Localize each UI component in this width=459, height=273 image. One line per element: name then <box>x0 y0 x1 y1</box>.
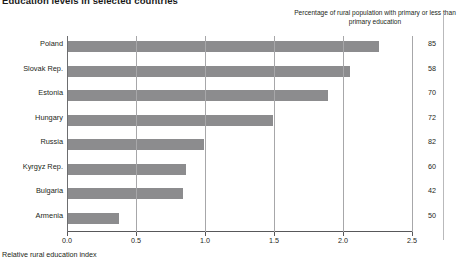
value-column-caption: Percentage of rural population with prim… <box>292 9 458 26</box>
chart-row: Slovak Rep.58 <box>67 61 412 86</box>
page-title: Education levels in selected countries <box>2 0 178 6</box>
gridline-1.0 <box>205 36 206 232</box>
bar <box>67 90 328 101</box>
gridline-2.5 <box>412 36 413 232</box>
bar <box>67 41 379 52</box>
percentage-value: 85 <box>419 39 445 48</box>
category-label: Russia <box>40 137 63 146</box>
gridline-2.0 <box>343 36 344 232</box>
bar <box>67 115 273 126</box>
category-label: Estonia <box>38 88 63 97</box>
x-tick-label-2.0: 2.0 <box>338 236 348 245</box>
percentage-value: 42 <box>419 186 445 195</box>
x-tick-label-2.5: 2.5 <box>407 236 417 245</box>
category-label: Armenia <box>35 211 63 220</box>
bar-rows: Poland85Slovak Rep.58Estonia70Hungary72R… <box>67 36 412 232</box>
chart-row: Kyrgyz Rep.60 <box>67 159 412 184</box>
bar <box>67 213 119 224</box>
percentage-value: 50 <box>419 211 445 220</box>
chart-row: Armenia50 <box>67 208 412 233</box>
x-tick-label-0.0: 0.0 <box>62 236 72 245</box>
gridline-1.5 <box>274 36 275 232</box>
x-axis-title: Relative rural education index <box>2 250 97 259</box>
bar <box>67 188 183 199</box>
category-label: Kyrgyz Rep. <box>23 162 63 171</box>
category-label: Bulgaria <box>36 186 63 195</box>
percentage-value: 72 <box>419 113 445 122</box>
chart-row: Hungary72 <box>67 110 412 135</box>
percentage-value: 82 <box>419 137 445 146</box>
chart-row: Estonia70 <box>67 85 412 110</box>
chart-row: Bulgaria42 <box>67 183 412 208</box>
percentage-value: 70 <box>419 88 445 97</box>
bar <box>67 66 350 77</box>
x-tick-label-1.5: 1.5 <box>269 236 279 245</box>
category-label: Poland <box>40 39 63 48</box>
chart-row: Poland85 <box>67 36 412 61</box>
x-axis-tick-labels: 0.00.51.01.52.02.5 <box>67 236 412 248</box>
category-label: Slovak Rep. <box>23 64 63 73</box>
chart-row: Russia82 <box>67 134 412 159</box>
percentage-value: 58 <box>419 64 445 73</box>
gridline-0.0 <box>67 36 68 232</box>
x-tick-label-0.5: 0.5 <box>131 236 141 245</box>
x-tick-label-1.0: 1.0 <box>200 236 210 245</box>
percentage-value: 60 <box>419 162 445 171</box>
chart-plot-area: Poland85Slovak Rep.58Estonia70Hungary72R… <box>67 36 412 232</box>
bar <box>67 164 186 175</box>
gridline-0.5 <box>136 36 137 232</box>
category-label: Hungary <box>35 113 63 122</box>
value-column-rule <box>443 14 444 240</box>
